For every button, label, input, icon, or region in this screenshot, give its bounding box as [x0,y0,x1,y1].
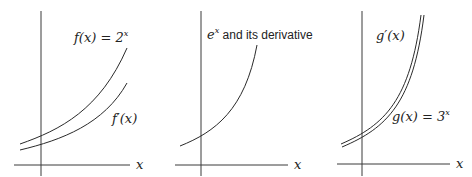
panel-3x: g′(x) g(x) = 3x x [337,11,464,176]
label-g-prime: g′(x) [376,28,405,43]
curve-f-prime [20,83,127,150]
label-f-prime: f′(x) [111,111,137,126]
label-f: f(x) = 2x [73,29,129,45]
x-axis-label: x [456,156,464,171]
exponential-derivative-figure: f(x) = 2x f′(x) x ex and its derivative … [0,0,472,177]
x-axis-label: x [294,157,302,172]
panel-2x: f(x) = 2x f′(x) x [14,11,144,176]
curve-ex [180,45,257,146]
label-g: g(x) = 3x [392,108,450,124]
curve-f [20,48,127,144]
panel-ex: ex and its derivative x [175,11,313,176]
x-axis-label: x [136,157,144,172]
label-ex: ex and its derivative [207,26,313,42]
